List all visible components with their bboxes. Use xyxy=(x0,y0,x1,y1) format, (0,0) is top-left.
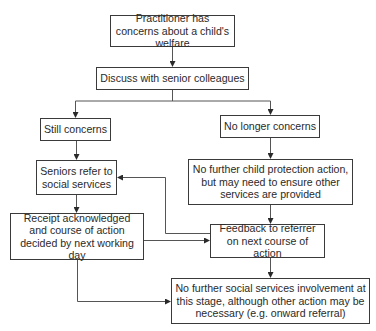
node-seniors-refer: Seniors refer to social services xyxy=(36,160,117,195)
edge-receipt-nofurtherss xyxy=(78,260,171,302)
node-still-concerns: Still concerns xyxy=(40,118,111,141)
node-no-longer-concerns: No longer concerns xyxy=(220,115,320,138)
node-no-further-cp-action: No further child protection action, but … xyxy=(188,159,353,205)
node-discuss-seniors: Discuss with senior colleagues xyxy=(96,67,249,90)
node-no-further-ss-involvement: No further social services involvement a… xyxy=(171,278,370,324)
edge-discuss-split xyxy=(76,90,271,101)
node-feedback-referrer: Feedback to referrer on next course of a… xyxy=(210,224,325,258)
node-practitioner-concerns: Practitioner has concerns about a child'… xyxy=(110,15,235,47)
node-receipt-acknowledged: Receipt acknowledged and course of actio… xyxy=(10,213,144,260)
